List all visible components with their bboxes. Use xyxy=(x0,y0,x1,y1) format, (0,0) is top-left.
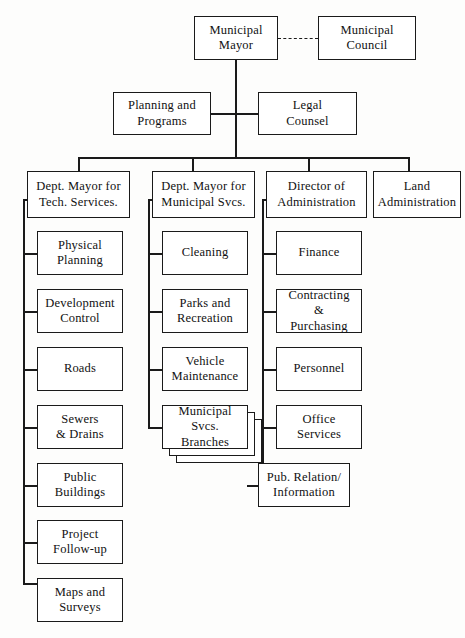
dept-tech-label-line2: Tech. Services. xyxy=(33,195,124,210)
project-follow-up-line2: Follow-up xyxy=(50,542,110,557)
contracting-line1: Contracting & xyxy=(280,288,358,319)
development-control-line2: Control xyxy=(42,311,118,326)
connector-department-bus xyxy=(78,157,409,159)
sewers-line2: & Drains xyxy=(53,427,107,442)
node-municipal-svcs-branches[interactable]: Municipal Svcs. Branches xyxy=(162,405,248,449)
physical-planning-line1: Physical xyxy=(54,238,106,253)
organizational-chart: Municipal Mayor Municipal Council Planni… xyxy=(0,0,465,638)
planning-label-line1: Planning and xyxy=(125,98,199,113)
node-sewers-and-drains[interactable]: Sewers & Drains xyxy=(37,405,123,449)
project-follow-up-line1: Project xyxy=(50,527,110,542)
municipal-branches-line1: Municipal xyxy=(166,404,244,419)
node-municipal-mayor[interactable]: Municipal Mayor xyxy=(194,16,278,60)
node-physical-planning[interactable]: Physical Planning xyxy=(37,231,123,275)
personnel-line1: Personnel xyxy=(290,361,347,376)
connector-mayor-council-dashed xyxy=(278,38,318,39)
connector-bus-drop-municipal xyxy=(192,157,194,171)
vehicle-maintenance-line2: Maintenance xyxy=(169,369,242,384)
dept-admin-label-line1: Director of xyxy=(274,179,359,194)
dept-municipal-label-line1: Dept. Mayor for xyxy=(158,179,249,194)
connector-tech-stub-4 xyxy=(23,427,38,429)
mayor-label-line1: Municipal xyxy=(206,23,265,38)
planning-label-line2: Programs xyxy=(125,114,199,129)
dept-admin-label-line2: Administration xyxy=(274,195,359,210)
node-parks-and-recreation[interactable]: Parks and Recreation xyxy=(162,289,248,333)
development-control-line1: Development xyxy=(42,296,118,311)
connector-municipal-stub-2 xyxy=(148,311,163,313)
node-office-services[interactable]: Office Services xyxy=(276,405,362,449)
node-maps-and-surveys[interactable]: Maps and Surveys xyxy=(37,578,123,622)
public-relation-line2: Information xyxy=(264,485,344,500)
public-buildings-line1: Public xyxy=(52,470,108,485)
node-public-buildings[interactable]: Public Buildings xyxy=(37,463,123,507)
public-relation-line1: Pub. Relation/ xyxy=(264,470,344,485)
connector-municipal-stub-3 xyxy=(148,369,163,371)
node-personnel[interactable]: Personnel xyxy=(276,347,362,391)
node-municipal-council[interactable]: Municipal Council xyxy=(318,16,416,60)
node-contracting-and-purchasing[interactable]: Contracting & Purchasing xyxy=(276,289,362,333)
connector-planning-to-trunk xyxy=(211,113,236,115)
connector-tech-stub-3 xyxy=(23,369,38,371)
legal-label-line1: Legal xyxy=(283,98,331,113)
office-services-line2: Services xyxy=(294,427,344,442)
connector-trunk-to-legal xyxy=(235,113,259,115)
connector-admin-stub-2 xyxy=(262,311,277,313)
vehicle-maintenance-line1: Vehicle xyxy=(169,354,242,369)
sewers-line1: Sewers xyxy=(53,412,107,427)
node-dept-mayor-tech-services[interactable]: Dept. Mayor for Tech. Services. xyxy=(27,171,130,218)
physical-planning-line2: Planning xyxy=(54,253,106,268)
connector-tech-spine xyxy=(23,199,25,583)
connector-mayor-trunk xyxy=(235,60,237,157)
dept-tech-label-line1: Dept. Mayor for xyxy=(33,179,124,194)
connector-bus-drop-admin xyxy=(308,157,310,171)
dept-land-label-line1: Land xyxy=(375,179,460,194)
maps-and-surveys-line2: Surveys xyxy=(52,600,109,615)
connector-admin-spine xyxy=(262,199,264,485)
finance-line1: Finance xyxy=(296,245,343,260)
connector-bus-drop-tech xyxy=(78,157,80,171)
connector-admin-stub-4 xyxy=(262,427,277,429)
node-dept-mayor-municipal-services[interactable]: Dept. Mayor for Municipal Svcs. xyxy=(152,171,255,218)
roads-line1: Roads xyxy=(61,361,99,376)
dept-municipal-label-line2: Municipal Svcs. xyxy=(158,195,249,210)
node-development-control[interactable]: Development Control xyxy=(37,289,123,333)
cleaning-line1: Cleaning xyxy=(179,245,232,260)
node-roads[interactable]: Roads xyxy=(37,347,123,391)
node-cleaning[interactable]: Cleaning xyxy=(162,231,248,275)
connector-tech-stub-2 xyxy=(23,311,38,313)
connector-tech-stub-6 xyxy=(23,542,38,544)
public-buildings-line2: Buildings xyxy=(52,485,108,500)
dept-land-label-line2: Administration xyxy=(375,195,460,210)
council-label-line1: Municipal xyxy=(337,23,396,38)
legal-label-line2: Counsel xyxy=(283,114,331,129)
node-land-administration[interactable]: Land Administration xyxy=(373,171,461,218)
connector-tech-stub-7 xyxy=(23,583,38,585)
connector-tech-stub-1 xyxy=(23,253,38,255)
node-public-relation-information[interactable]: Pub. Relation/ Information xyxy=(258,463,350,507)
council-label-line2: Council xyxy=(337,38,396,53)
node-vehicle-maintenance[interactable]: Vehicle Maintenance xyxy=(162,347,248,391)
connector-admin-stub-1 xyxy=(262,253,277,255)
node-director-of-administration[interactable]: Director of Administration xyxy=(266,171,367,218)
connector-tech-stub-5 xyxy=(23,485,38,487)
node-planning-and-programs[interactable]: Planning and Programs xyxy=(113,92,211,135)
node-finance[interactable]: Finance xyxy=(276,231,362,275)
office-services-line1: Office xyxy=(294,412,344,427)
connector-admin-stub-3 xyxy=(262,369,277,371)
connector-bus-drop-land xyxy=(408,157,410,171)
contracting-line2: Purchasing xyxy=(280,319,358,334)
node-project-follow-up[interactable]: Project Follow-up xyxy=(37,520,123,564)
connector-municipal-stub-1 xyxy=(148,253,163,255)
maps-and-surveys-line1: Maps and xyxy=(52,585,109,600)
connector-municipal-stub-4 xyxy=(148,427,163,429)
parks-recreation-line2: Recreation xyxy=(174,311,236,326)
mayor-label-line2: Mayor xyxy=(206,38,265,53)
municipal-branches-line2: Svcs. Branches xyxy=(166,419,244,450)
parks-recreation-line1: Parks and xyxy=(174,296,236,311)
node-legal-counsel[interactable]: Legal Counsel xyxy=(258,92,357,135)
connector-municipal-spine xyxy=(148,199,150,427)
